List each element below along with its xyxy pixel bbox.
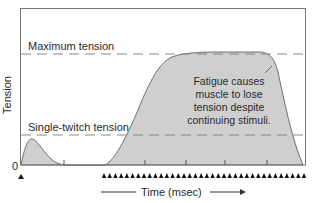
stimulus-marker	[102, 173, 106, 178]
y-axis-label: Tension	[1, 76, 13, 114]
stimulus-marker	[279, 173, 283, 178]
stimulus-marker	[222, 173, 226, 178]
stimulus-marker	[210, 173, 214, 178]
stimulus-marker	[130, 173, 134, 178]
tension-chart: Maximum tension Single-twitch tension Te…	[0, 0, 312, 203]
arrow-right-icon	[240, 189, 246, 195]
stimulus-marker	[142, 173, 146, 178]
stimulus-marker	[239, 173, 243, 178]
single-stimulus-marker	[18, 174, 24, 179]
stimulus-marker	[199, 173, 203, 178]
stimulus-marker	[273, 173, 277, 178]
stimulus-marker	[290, 173, 294, 178]
stimulus-marker	[245, 173, 249, 178]
stimulus-marker	[193, 173, 197, 178]
zero-tick-label: 0	[12, 160, 18, 172]
svg-text:Fatigue causes: Fatigue causes	[193, 75, 264, 87]
stimulus-marker	[182, 173, 186, 178]
svg-text:tension despite: tension despite	[194, 101, 265, 113]
stimulus-marker	[188, 173, 192, 178]
x-axis-label: Time (msec)	[141, 186, 202, 198]
stimulus-marker	[125, 173, 129, 178]
stimulus-marker	[170, 173, 174, 178]
stimulus-marker	[119, 173, 123, 178]
stimulus-marker	[113, 173, 117, 178]
fatigue-annotation: Fatigue causes muscle to lose tension de…	[187, 75, 270, 126]
stimulus-marker	[108, 173, 112, 178]
stimulus-marker	[268, 173, 272, 178]
stimulus-marker	[302, 173, 306, 178]
svg-text:continuing stimuli.: continuing stimuli.	[187, 114, 270, 126]
svg-text:muscle to lose: muscle to lose	[195, 88, 262, 100]
stimulus-marker	[250, 173, 254, 178]
repeated-stimulus-markers	[102, 173, 306, 178]
stimulus-marker	[205, 173, 209, 178]
stimulus-marker	[153, 173, 157, 178]
stimulus-marker	[262, 173, 266, 178]
stimulus-marker	[296, 173, 300, 178]
stimulus-marker	[233, 173, 237, 178]
stimulus-marker	[285, 173, 289, 178]
single-twitch-label: Single-twitch tension	[28, 121, 129, 133]
stimulus-marker	[176, 173, 180, 178]
stimulus-marker	[159, 173, 163, 178]
stimulus-marker	[148, 173, 152, 178]
stimulus-marker	[165, 173, 169, 178]
stimulus-marker	[228, 173, 232, 178]
stimulus-marker	[136, 173, 140, 178]
stimulus-marker	[216, 173, 220, 178]
max-tension-label: Maximum tension	[28, 40, 114, 52]
stimulus-marker	[256, 173, 260, 178]
